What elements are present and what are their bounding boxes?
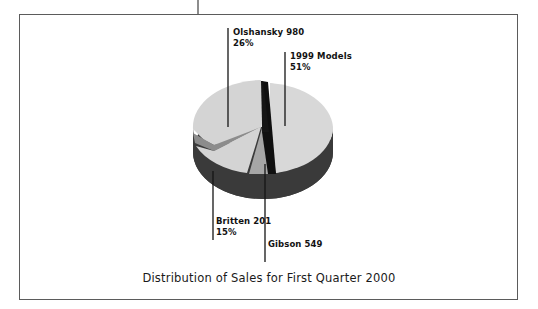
pie-label-1999-models-percent: 51% xyxy=(290,62,352,73)
pie-chart: Olshansky 980 26% 1999 Models 51% Britte… xyxy=(0,0,538,309)
pie-label-britten: Britten 201 15% xyxy=(216,216,271,237)
pie-label-gibson-name: Gibson 549 xyxy=(268,239,323,249)
pie-label-olshansky: Olshansky 980 26% xyxy=(233,27,304,48)
chart-title: Distribution of Sales for First Quarter … xyxy=(0,271,538,285)
pie-label-1999-models: 1999 Models 51% xyxy=(290,51,352,72)
pie-label-olshansky-name: Olshansky 980 xyxy=(233,27,304,37)
pie-label-1999-models-name: 1999 Models xyxy=(290,51,352,61)
pie-label-britten-name: Britten 201 xyxy=(216,216,271,226)
pie-label-olshansky-percent: 26% xyxy=(233,38,304,49)
pie-label-britten-percent: 15% xyxy=(216,227,271,238)
pie-label-gibson: Gibson 549 xyxy=(268,239,323,250)
chart-page: Olshansky 980 26% 1999 Models 51% Britte… xyxy=(0,0,538,309)
